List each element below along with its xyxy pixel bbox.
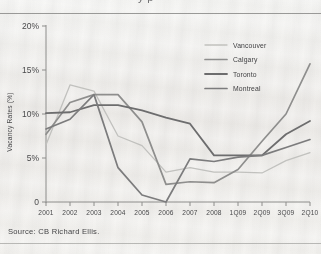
y-tick-label: 5% (27, 153, 40, 163)
x-tick-label: 2003 (86, 209, 102, 216)
x-tick-label: 2Q10 (302, 209, 319, 217)
y-tick-label: 15% (22, 65, 39, 75)
x-tick-label: 2Q09 (254, 209, 271, 217)
series-line-calgary (46, 64, 310, 185)
legend-label-calgary[interactable]: Calgary (233, 56, 258, 64)
series-line-toronto (46, 105, 310, 155)
legend-label-toronto[interactable]: Toronto (233, 71, 257, 78)
series-lines (46, 64, 310, 202)
x-tick-label: 3Q09 (278, 209, 295, 217)
x-tick-label: 1Q09 (230, 209, 247, 217)
x-tick-label: 2001 (38, 209, 54, 216)
legend-label-vancouver[interactable]: Vancouver (233, 42, 267, 49)
chart-legend[interactable]: VancouverCalgaryTorontoMontreal (205, 42, 267, 93)
chart-plot-area: 05%10%15%20% 200120022003200420052006200… (0, 14, 321, 220)
y-tick-label: 20% (22, 21, 39, 31)
x-tick-label: 2005 (134, 209, 150, 216)
y-tick-label: 10% (22, 109, 39, 119)
x-tick-label: 2006 (158, 209, 174, 216)
bottom-rule (0, 243, 321, 244)
x-tick-label: 2004 (110, 209, 126, 216)
y-tick-label: 0 (34, 197, 39, 207)
vacancy-rates-line-chart: 05%10%15%20% 200120022003200420052006200… (0, 14, 321, 220)
legend-label-montreal[interactable]: Montreal (233, 85, 261, 92)
source-note: Source: CB Richard Ellis. (8, 227, 100, 236)
cropped-title-strip: y p (0, 0, 321, 13)
x-tick-label: 2007 (182, 209, 198, 216)
y-axis-title: Vacancy Rates (%) (6, 92, 14, 151)
x-tick-label: 2002 (62, 209, 78, 216)
cropped-title-text: y p (138, 0, 154, 3)
x-tick-label: 2008 (206, 209, 222, 216)
x-axis: 200120022003200420052006200720081Q092Q09… (38, 202, 318, 217)
y-axis: 05%10%15%20% (22, 21, 46, 207)
